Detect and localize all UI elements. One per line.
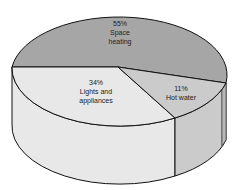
pct-space-heating: 55%: [95, 19, 145, 28]
label-space-heating: 55% Space heating: [95, 19, 145, 46]
pie-chart: 55% Space heating 34% Lights and applian…: [0, 0, 236, 190]
name-lights-2: appliances: [68, 96, 124, 105]
name-space-heating-1: Space: [95, 28, 145, 37]
label-lights-and-appliances: 34% Lights and appliances: [68, 78, 124, 105]
name-space-heating-2: heating: [95, 37, 145, 46]
name-hot-water: Hot water: [158, 93, 204, 102]
name-lights-1: Lights and: [68, 87, 124, 96]
label-hot-water: 11% Hot water: [158, 84, 204, 102]
pct-lights: 34%: [68, 78, 124, 87]
pct-hot-water: 11%: [158, 84, 204, 93]
